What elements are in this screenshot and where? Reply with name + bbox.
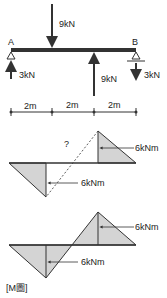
support-b-label: B <box>132 37 138 47</box>
dimension-label-3: 2m <box>108 100 121 110</box>
support-b <box>127 52 145 61</box>
beam <box>11 48 136 52</box>
structural-diagram: A B 9kN 9kN 3kN 3kN 2m 2m 2m <box>0 0 167 298</box>
down-load-label: 9kN <box>59 19 75 29</box>
reaction-a-label: 3kN <box>19 70 35 80</box>
reaction-b-label: 3kN <box>144 70 160 80</box>
md1-top-label: 6kNm <box>135 143 159 153</box>
caption: [M圖] <box>6 283 28 293</box>
dimension-label-2: 2m <box>66 100 79 110</box>
md1-bottom-label: 6kNm <box>81 178 105 188</box>
moment-diagram-1 <box>9 131 136 197</box>
support-a-label: A <box>8 37 14 47</box>
moment-diagram-2 <box>9 212 136 278</box>
up-load-label: 9kN <box>101 74 117 84</box>
md2-top-label: 6kNm <box>135 222 159 232</box>
dimension-label-1: 2m <box>24 101 37 111</box>
support-a <box>7 52 15 59</box>
md2-bottom-label: 6kNm <box>81 257 105 267</box>
question-mark: ? <box>64 139 69 149</box>
